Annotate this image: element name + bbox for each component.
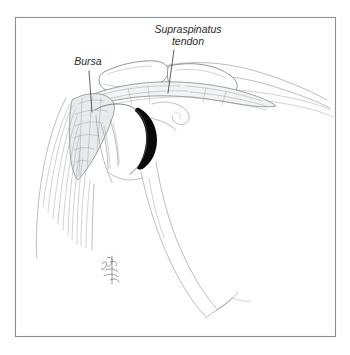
illustration-canvas: Supraspinatus tendon Bursa <box>0 0 350 355</box>
supraspinatus-label-line1: Supraspinatus <box>154 23 222 35</box>
bursa-label: Bursa <box>74 55 102 67</box>
shoulder-anatomy-illustration: Supraspinatus tendon Bursa <box>0 0 350 355</box>
supraspinatus-label-line2: tendon <box>172 35 204 47</box>
